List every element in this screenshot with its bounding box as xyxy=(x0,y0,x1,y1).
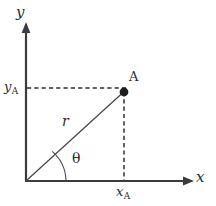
y-coordinate-subscript: A xyxy=(12,86,19,96)
point-a-marker xyxy=(120,88,129,97)
y-coordinate-label: yA xyxy=(4,80,18,93)
x-coordinate-label: xA xyxy=(116,185,130,198)
x-coordinate-symbol: x xyxy=(116,184,123,199)
y-axis-label: y xyxy=(16,5,24,20)
angle-label: θ xyxy=(72,151,80,165)
diagram-canvas xyxy=(0,0,216,206)
x-axis-label: x xyxy=(196,170,204,185)
radius-label: r xyxy=(62,114,69,128)
x-axis-arrowhead xyxy=(183,177,194,186)
y-coordinate-symbol: y xyxy=(4,79,11,94)
x-coordinate-subscript: A xyxy=(124,191,131,201)
y-axis-arrowhead xyxy=(22,22,31,33)
point-a-label: A xyxy=(129,70,138,83)
radius-line xyxy=(27,93,124,181)
coordinate-diagram: y x A r θ yA xA xyxy=(0,0,216,206)
